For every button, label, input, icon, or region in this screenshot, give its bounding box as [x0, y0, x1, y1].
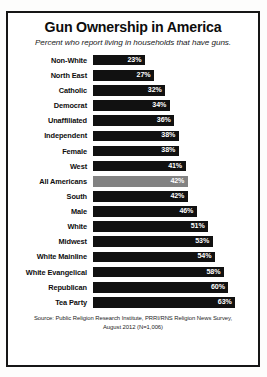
bar-track: 54%	[93, 250, 251, 265]
bar-row: West41%	[8, 159, 251, 174]
bar-value-label: 58%	[207, 269, 224, 276]
source-line-2: August 2012 (N=1,006)	[18, 323, 248, 331]
bar-value-label: 27%	[137, 72, 154, 79]
bar-value-label: 46%	[179, 208, 196, 215]
bar: 34%	[93, 100, 170, 111]
bar-row: Catholic32%	[8, 83, 251, 98]
chart-card: Gun Ownership in America Percent who rep…	[6, 11, 260, 367]
bar: 58%	[93, 267, 224, 278]
bar: 63%	[93, 297, 235, 308]
bar: 42%	[93, 191, 188, 202]
bar-value-label: 38%	[161, 132, 178, 139]
bar-row: Democrat34%	[8, 98, 251, 113]
bar: 32%	[93, 85, 165, 96]
bar: 46%	[93, 206, 197, 217]
bar-row: Female38%	[8, 144, 251, 159]
bar-category-label: Catholic	[8, 87, 93, 94]
chart-page: Gun Ownership in America Percent who rep…	[0, 0, 267, 377]
bar-category-label: Unaffiliated	[8, 117, 93, 124]
bar: 60%	[93, 282, 228, 293]
bar-row: White Evangelical58%	[8, 265, 251, 280]
bar: 53%	[93, 236, 213, 247]
bar-value-label: 36%	[157, 117, 174, 124]
bar-category-label: Midwest	[8, 238, 93, 245]
bar: 27%	[93, 70, 154, 81]
source-line-1: Source: Public Religion Research Institu…	[18, 314, 248, 322]
bar-row: Republican60%	[8, 280, 251, 295]
bar-value-label: 63%	[218, 299, 235, 306]
bar-category-label: West	[8, 163, 93, 170]
bar-row: All Americans42%	[8, 174, 251, 189]
bar-track: 53%	[93, 234, 251, 249]
bar-value-label: 60%	[211, 284, 228, 291]
bar-category-label: Non-White	[8, 57, 93, 64]
bar-row: White51%	[8, 219, 251, 234]
bar-track: 63%	[93, 295, 251, 310]
bar-category-label: South	[8, 193, 93, 200]
bar-track: 41%	[93, 159, 251, 174]
bar-track: 58%	[93, 265, 251, 280]
bar-track: 51%	[93, 219, 251, 234]
bar: 41%	[93, 161, 186, 172]
bar-track: 42%	[93, 189, 251, 204]
bar-track: 46%	[93, 204, 251, 219]
bar-value-label: 42%	[170, 178, 187, 185]
bar-category-label: Republican	[8, 284, 93, 291]
bar-value-label: 34%	[152, 102, 169, 109]
bar-category-label: Democrat	[8, 102, 93, 109]
bar: 38%	[93, 131, 179, 142]
bar-track: 23%	[93, 53, 251, 68]
bar-row: North East27%	[8, 68, 251, 83]
bar-row: Unaffiliated36%	[8, 113, 251, 128]
bar-value-label: 51%	[191, 223, 208, 230]
bar-value-label: 54%	[197, 253, 214, 260]
bar-category-label: White Evangelical	[8, 269, 93, 276]
bar-category-label: White	[8, 223, 93, 230]
bar-track: 60%	[93, 280, 251, 295]
bar-category-label: Female	[8, 148, 93, 155]
bar-value-label: 53%	[195, 238, 212, 245]
bar-highlighted: 42%	[93, 176, 188, 187]
bar-category-label: North East	[8, 72, 93, 79]
bar-track: 27%	[93, 68, 251, 83]
bar-chart-plot-area: Non-White23%North East27%Catholic32%Demo…	[8, 53, 258, 310]
bar-row: Tea Party63%	[8, 295, 251, 310]
bar-value-label: 42%	[170, 193, 187, 200]
bar-value-label: 38%	[161, 147, 178, 154]
bar: 54%	[93, 252, 215, 263]
bar-value-label: 23%	[128, 57, 145, 64]
bar-category-label: All Americans	[8, 178, 93, 185]
bar-value-label: 41%	[168, 163, 185, 170]
bar-row: Male46%	[8, 204, 251, 219]
bar: 51%	[93, 221, 208, 232]
bar-row: South42%	[8, 189, 251, 204]
bar: 38%	[93, 146, 179, 157]
bar-category-label: White Mainline	[8, 253, 93, 260]
bar-track: 38%	[93, 129, 251, 144]
bar: 23%	[93, 55, 145, 66]
bar-track: 42%	[93, 174, 251, 189]
bar: 36%	[93, 115, 174, 126]
bar-row: Non-White23%	[8, 53, 251, 68]
bar-track: 36%	[93, 113, 251, 128]
bar-row: Independent38%	[8, 129, 251, 144]
bar-category-label: Male	[8, 208, 93, 215]
source-note: Source: Public Religion Research Institu…	[18, 314, 248, 331]
bar-value-label: 32%	[148, 87, 165, 94]
chart-subtitle: Percent who report living in households …	[14, 39, 252, 48]
bar-track: 32%	[93, 83, 251, 98]
bar-category-label: Tea Party	[8, 299, 93, 306]
page-title: Gun Ownership in America	[12, 20, 254, 35]
bar-track: 34%	[93, 98, 251, 113]
bar-row: Midwest53%	[8, 234, 251, 249]
bar-track: 38%	[93, 144, 251, 159]
bar-row: White Mainline54%	[8, 250, 251, 265]
bar-category-label: Independent	[8, 132, 93, 139]
